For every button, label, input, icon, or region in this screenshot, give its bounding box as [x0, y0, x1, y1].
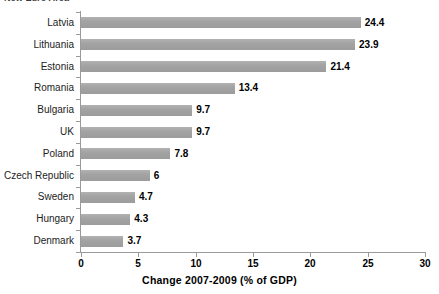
bar — [81, 192, 135, 203]
bar — [81, 214, 130, 225]
bar-value-label: 24.4 — [365, 18, 384, 28]
bar-value-label: 7.8 — [174, 149, 188, 159]
x-axis-tick — [310, 253, 311, 257]
x-axis-tick-label: 15 — [238, 258, 268, 269]
y-axis-tick — [76, 56, 80, 57]
y-axis-tick — [76, 143, 80, 144]
x-axis-tick — [253, 253, 254, 257]
x-axis-tick-label: 20 — [295, 258, 325, 269]
x-axis-tick — [81, 253, 82, 257]
y-axis-tick — [76, 34, 80, 35]
y-axis-tick — [76, 208, 80, 209]
bar-value-label: 4.3 — [134, 214, 148, 224]
bar-value-label: 6 — [154, 171, 160, 181]
bar — [81, 17, 361, 28]
y-axis-tick — [76, 121, 80, 122]
y-axis-tick — [76, 99, 80, 100]
bar-value-label: 9.7 — [196, 127, 210, 137]
y-axis-tick — [76, 252, 80, 253]
bar — [81, 236, 123, 247]
bar-value-label: 13.4 — [239, 83, 258, 93]
category-label: Lithuania — [33, 40, 74, 50]
y-axis-tick — [76, 230, 80, 231]
bar-value-label: 23.9 — [359, 40, 378, 50]
category-label: Hungary — [36, 214, 74, 224]
category-label: Bulgaria — [37, 105, 74, 115]
bar-value-label: 21.4 — [330, 62, 349, 72]
category-label: Denmark — [33, 236, 74, 246]
bar-chart: New Euro Area LatviaLithuaniaEstoniaRoma… — [0, 0, 439, 294]
category-label: Latvia — [47, 18, 74, 28]
x-axis-tick-label: 0 — [66, 258, 96, 269]
x-axis-tick — [138, 253, 139, 257]
bar — [81, 83, 235, 94]
bar-value-label: 4.7 — [139, 192, 153, 202]
bar — [81, 61, 326, 72]
x-axis-tick — [425, 253, 426, 257]
category-label: Sweden — [38, 192, 74, 202]
x-axis-tick-label: 5 — [123, 258, 153, 269]
x-axis-title: Change 2007-2009 (% of GDP) — [0, 274, 439, 286]
x-axis-tick-label: 25 — [353, 258, 383, 269]
x-axis-tick-label: 30 — [410, 258, 439, 269]
x-axis-tick-label: 10 — [181, 258, 211, 269]
category-axis-labels: LatviaLithuaniaEstoniaRomaniaBulgariaUKP… — [0, 0, 74, 294]
y-axis-tick — [76, 77, 80, 78]
bar — [81, 105, 192, 116]
y-axis-tick — [76, 165, 80, 166]
x-axis-tick — [368, 253, 369, 257]
category-label: UK — [60, 127, 74, 137]
category-label: Czech Republic — [4, 171, 74, 181]
category-label: Romania — [34, 83, 74, 93]
category-label: Estonia — [41, 62, 74, 72]
bar-value-label: 9.7 — [196, 105, 210, 115]
x-axis-tick — [196, 253, 197, 257]
bar-value-label: 3.7 — [127, 236, 141, 246]
bar — [81, 39, 355, 50]
bar — [81, 127, 192, 138]
bar — [81, 170, 150, 181]
y-axis-tick — [76, 187, 80, 188]
category-label: Poland — [43, 149, 74, 159]
y-axis-tick — [76, 12, 80, 13]
bar — [81, 148, 170, 159]
